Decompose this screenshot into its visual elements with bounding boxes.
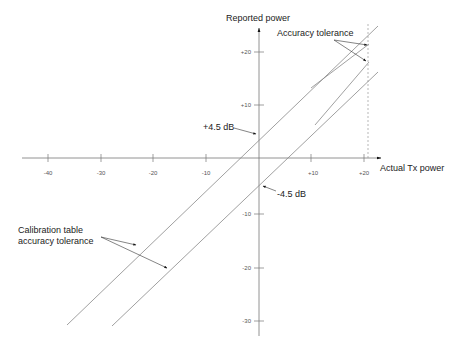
y-tick-label: -10 — [242, 211, 251, 217]
x-tick-label: -30 — [97, 170, 106, 176]
lower-accuracy-line — [315, 62, 369, 125]
calibration-label-line2: accuracy tolerance — [18, 236, 94, 246]
accuracy-tolerance-label: Accuracy tolerance — [277, 28, 354, 38]
x-tick-label: -20 — [149, 170, 158, 176]
minus-offset-label: -4.5 dB — [277, 189, 306, 199]
power-accuracy-diagram: -40 -30 -20 -10 +10 +20 +20 +10 -10 -20 … — [0, 0, 456, 349]
y-axis-label: Reported power — [226, 13, 290, 23]
lower-calibration-line — [112, 72, 378, 326]
x-tick-label: +10 — [308, 170, 319, 176]
x-axis-label: Actual Tx power — [380, 163, 444, 173]
y-tick-label: +10 — [241, 102, 252, 108]
plus-offset-label: +4.5 dB — [203, 122, 234, 132]
y-tick-label: +20 — [241, 49, 252, 55]
y-tick-label: -20 — [242, 265, 251, 271]
x-tick-label: -40 — [44, 170, 53, 176]
annotation-arrows — [101, 40, 367, 268]
upper-calibration-line — [67, 26, 378, 325]
calibration-label-line1: Calibration table — [18, 225, 83, 235]
upper-accuracy-line — [311, 44, 369, 88]
y-tick-label: -30 — [242, 318, 251, 324]
x-tick-label: -10 — [202, 170, 211, 176]
x-tick-label: +20 — [359, 170, 370, 176]
